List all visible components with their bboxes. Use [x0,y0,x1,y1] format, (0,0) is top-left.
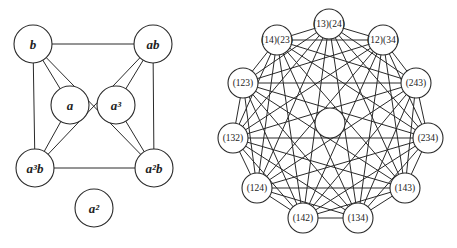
node-label: (123) [233,78,254,89]
node-n143: (143) [390,173,420,203]
node-label: (13)(24) [313,19,345,30]
node-a2b: a²b [135,149,173,187]
node-center [315,108,345,138]
node-a3: a³ [97,86,135,124]
node-label: (143) [395,183,416,194]
edge-n234-n134 [358,138,428,218]
node-n1324: (13)(24) [313,9,345,39]
right-graph-nodes: (13)(24)(12)(34)(243)(234)(143)(134)(142… [218,9,443,233]
node-n1423: (14)(23) [261,25,293,55]
node-a3b: a³b [16,149,54,187]
node-label: (142) [293,213,314,224]
node-label: (132) [223,133,244,144]
node-a2: a² [75,189,113,227]
node-label: (234) [418,133,439,144]
node-n243: (243) [401,68,431,98]
node-n124: (124) [242,173,272,203]
edge-n142-n1423 [277,40,303,218]
node-label: a [67,98,74,113]
node-label: (124) [247,183,268,194]
node-label: a³ [111,98,123,113]
node-b: b [14,25,52,63]
node-n134: (134) [343,203,373,233]
node-n234: (234) [413,123,443,153]
node-n132: (132) [218,123,248,153]
node-n123: (123) [228,68,258,98]
node-circle [315,108,345,138]
node-a: a [51,86,89,124]
node-n1234: (12)(34) [367,25,399,55]
node-label: (243) [406,78,427,89]
node-label: ab [147,37,161,52]
node-label: (14)(23) [261,35,293,46]
node-ab: ab [134,25,172,63]
node-label: b [30,37,37,52]
node-label: a² [89,201,101,216]
node-label: (12)(34) [367,35,399,46]
node-label: a³b [27,161,44,176]
node-n142: (142) [288,203,318,233]
graph-canvas: babaa³a³ba²ba² (13)(24)(12)(34)(243)(234… [0,0,457,248]
left-graph-nodes: babaa³a³ba²ba² [14,25,173,227]
node-label: a²b [146,161,163,176]
node-label: (134) [348,213,369,224]
